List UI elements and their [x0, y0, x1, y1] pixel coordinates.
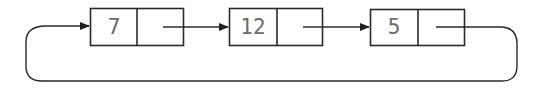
node-value: 7 [108, 15, 121, 39]
node-value: 12 [240, 15, 265, 39]
node-value: 5 [388, 15, 401, 39]
linked-list-diagram: 7 12 5 [0, 0, 540, 88]
